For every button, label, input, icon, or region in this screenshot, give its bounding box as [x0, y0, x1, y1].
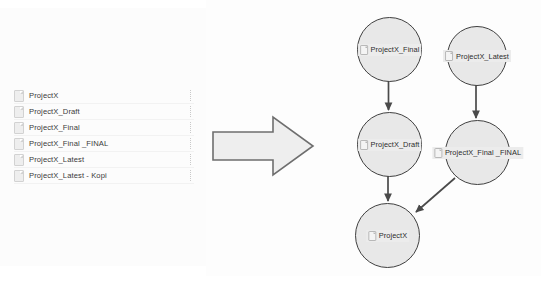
file-name: ProjectX_Latest [29, 155, 84, 164]
document-icon [14, 122, 24, 134]
list-item[interactable]: ProjectX_Latest [14, 152, 194, 168]
node-label-text: ProjectX_Draft [371, 140, 420, 149]
list-item[interactable]: ProjectX_Final [14, 120, 194, 136]
row-handle [190, 170, 192, 181]
graph-node-projectx-draft[interactable]: ProjectX_Draft [357, 112, 422, 177]
row-handle [190, 90, 192, 101]
file-name: ProjectX_Final _FINAL [29, 139, 108, 148]
node-label: ProjectX_Final _FINAL [432, 147, 523, 159]
document-icon [14, 170, 24, 182]
row-handle [190, 106, 192, 117]
row-handle [190, 122, 192, 133]
node-label: ProjectX_Draft [358, 139, 422, 151]
document-icon [445, 51, 453, 61]
file-name: ProjectX_Draft [29, 107, 80, 116]
node-label-text: ProjectX_Final _FINAL [445, 148, 521, 157]
node-label-text: ProjectX_Latest [456, 52, 509, 61]
document-icon [14, 90, 24, 102]
list-item[interactable]: ProjectX_Latest - Kopi [14, 168, 194, 184]
node-label-text: ProjectX_Final [371, 45, 420, 54]
node-label: ProjectX [366, 230, 409, 242]
document-icon [360, 140, 368, 150]
document-icon [14, 106, 24, 118]
document-icon [14, 138, 24, 150]
node-label: ProjectX_Final [358, 44, 422, 56]
diagram-canvas: ProjectX ProjectX_Draft ProjectX_Final P… [0, 0, 541, 283]
file-name: ProjectX_Final [29, 123, 80, 132]
node-graph: ProjectX_Final ProjectX_Latest ProjectX_… [330, 0, 541, 283]
right-block-arrow-icon [211, 114, 315, 178]
row-handle [190, 154, 192, 165]
node-label-text: ProjectX [379, 231, 407, 240]
row-handle [190, 138, 192, 149]
list-item[interactable]: ProjectX [14, 88, 194, 104]
graph-node-projectx-final-final[interactable]: ProjectX_Final _FINAL [445, 120, 510, 185]
graph-node-projectx-final[interactable]: ProjectX_Final [357, 17, 422, 82]
list-item[interactable]: ProjectX_Final _FINAL [14, 136, 194, 152]
file-name: ProjectX_Latest - Kopi [29, 171, 107, 180]
graph-node-projectx-latest[interactable]: ProjectX_Latest [447, 26, 507, 86]
document-icon [14, 154, 24, 166]
node-label: ProjectX_Latest [443, 50, 511, 62]
file-list: ProjectX ProjectX_Draft ProjectX_Final P… [14, 88, 194, 184]
document-icon [368, 231, 376, 241]
list-item[interactable]: ProjectX_Draft [14, 104, 194, 120]
edge-final-final-to-projectx [416, 178, 455, 212]
document-icon [434, 148, 442, 158]
document-icon [360, 45, 368, 55]
graph-node-projectx[interactable]: ProjectX [355, 203, 420, 268]
file-name: ProjectX [29, 91, 59, 100]
